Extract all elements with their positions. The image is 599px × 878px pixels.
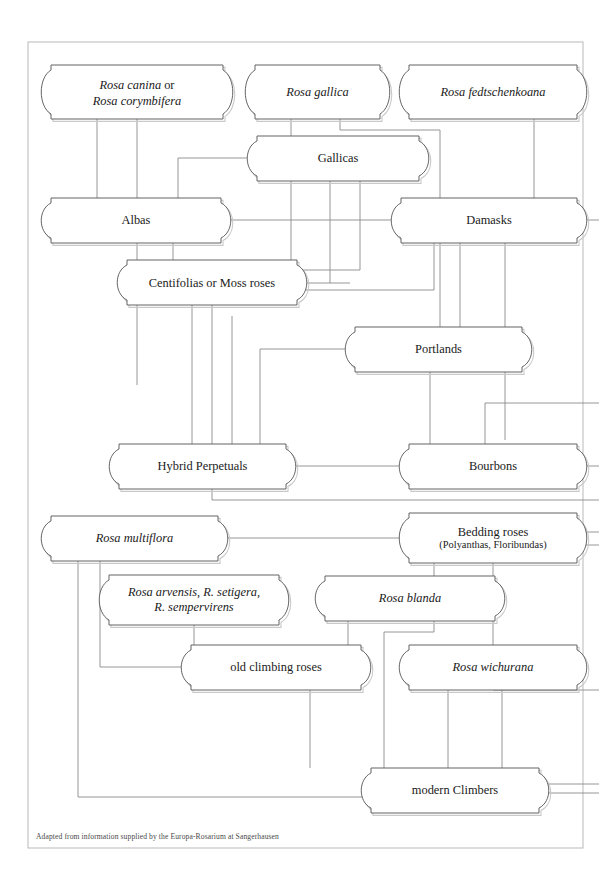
diagram-page: Rosa canina orRosa corymbiferaRosa galli…	[0, 0, 599, 878]
node-bedding-roses[interactable]	[399, 513, 589, 565]
node-outline[interactable]	[109, 444, 296, 489]
node-outline[interactable]	[399, 65, 587, 119]
node-outline[interactable]	[117, 260, 307, 305]
node-outline[interactable]	[181, 645, 371, 690]
node-damasks[interactable]	[391, 198, 589, 245]
node-modern-climbers[interactable]	[361, 768, 551, 815]
node-rosa-gallica[interactable]	[245, 65, 392, 121]
node-outline[interactable]	[99, 575, 289, 625]
node-gallicas[interactable]	[247, 136, 431, 183]
node-outline[interactable]	[245, 65, 390, 119]
node-rosa-multiflora[interactable]	[41, 516, 230, 563]
node-portlands[interactable]	[345, 327, 534, 374]
rose-genealogy-diagram	[0, 0, 599, 878]
node-outline[interactable]	[41, 516, 228, 561]
node-rosa-fedtschenkoana[interactable]	[399, 65, 589, 121]
node-outline[interactable]	[315, 576, 505, 621]
node-rosa-arvensis-setigera-sempervirens[interactable]	[99, 575, 291, 627]
node-outline[interactable]	[399, 645, 587, 690]
node-outline[interactable]	[247, 136, 429, 181]
node-outline[interactable]	[41, 198, 231, 243]
node-outline[interactable]	[391, 198, 587, 243]
node-bourbons[interactable]	[399, 444, 589, 491]
node-hybrid-perpetuals[interactable]	[109, 444, 298, 491]
node-rosa-blanda[interactable]	[315, 576, 507, 623]
node-outline[interactable]	[345, 327, 532, 372]
node-rosa-wichurana[interactable]	[399, 645, 589, 692]
node-outline[interactable]	[399, 444, 587, 489]
node-old-climbing-roses[interactable]	[181, 645, 373, 692]
node-centifolias-moss-roses[interactable]	[117, 260, 309, 307]
node-albas[interactable]	[41, 198, 233, 245]
page-background	[0, 0, 599, 878]
source-caption: Adapted from information supplied by the…	[36, 832, 279, 841]
node-rosa-canina-corymbifera[interactable]	[41, 65, 235, 121]
node-outline[interactable]	[399, 513, 587, 563]
node-outline[interactable]	[361, 768, 549, 813]
node-outline[interactable]	[41, 65, 233, 119]
